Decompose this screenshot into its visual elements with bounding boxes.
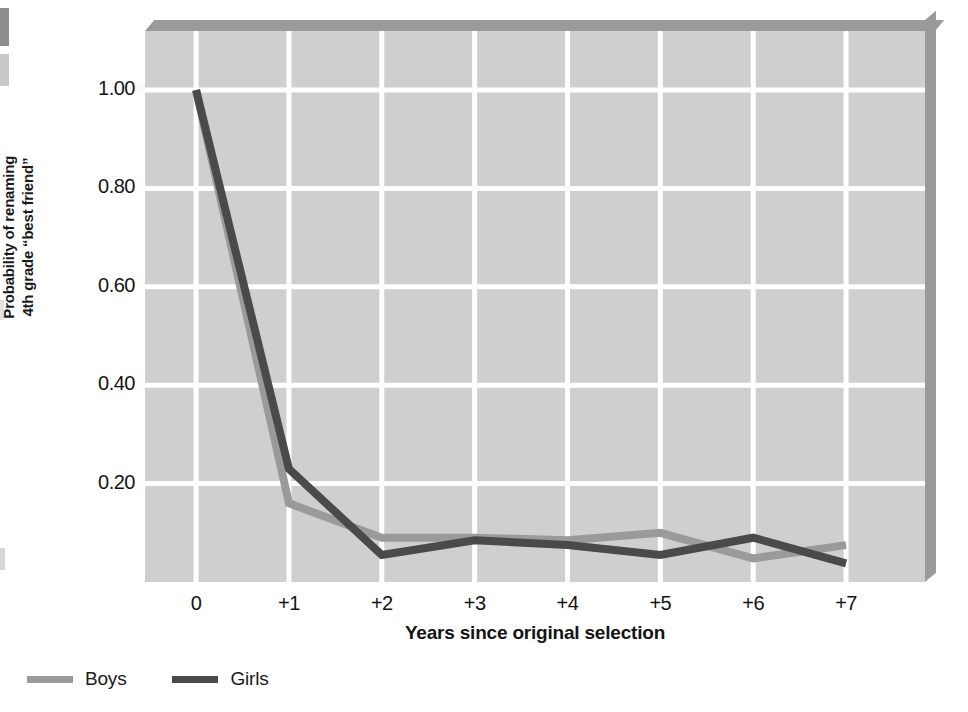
plot-canvas <box>145 31 925 582</box>
y-tick-label: 0.60 <box>69 274 135 297</box>
x-tick-label: +2 <box>352 592 412 615</box>
y-axis-title: Probability of renaming 4th grade “best … <box>0 0 37 477</box>
y-gridlines <box>145 90 925 484</box>
chart-legend: BoysGirls <box>27 668 269 690</box>
x-axis-title: Years since original selection <box>145 622 925 644</box>
x-tick-label: +4 <box>538 592 598 615</box>
legend-entry-boys[interactable]: Boys <box>27 668 126 690</box>
plot-3d-top-bevel <box>145 20 944 31</box>
x-tick-label: +1 <box>259 592 319 615</box>
legend-label-girls: Girls <box>230 668 268 690</box>
series-line-girls <box>196 90 846 563</box>
legend-swatch-girls <box>172 676 218 683</box>
x-gridlines <box>196 31 846 582</box>
y-tick-label: 0.80 <box>69 175 135 198</box>
legend-swatch-boys <box>27 676 73 683</box>
y-tick-label: 0.20 <box>69 471 135 494</box>
y-axis-title-line-2: 4th grade “best friend” <box>18 0 37 477</box>
scan-artifact-lower <box>0 548 5 570</box>
x-tick-label: +6 <box>723 592 783 615</box>
plot-3d-right-bevel <box>925 11 936 582</box>
legend-entry-girls[interactable]: Girls <box>172 668 268 690</box>
plot-area <box>145 31 925 582</box>
y-axis-title-line-1: Probability of renaming <box>0 0 18 477</box>
y-tick-label: 0.40 <box>69 372 135 395</box>
y-tick-label: 1.00 <box>69 77 135 100</box>
chart-figure: Probability of renaming 4th grade “best … <box>0 0 968 712</box>
x-tick-label: 0 <box>166 592 226 615</box>
series-lines <box>196 90 846 563</box>
x-tick-label: +7 <box>816 592 876 615</box>
x-tick-label: +5 <box>630 592 690 615</box>
series-line-boys <box>196 90 846 558</box>
x-tick-label: +3 <box>445 592 505 615</box>
legend-label-boys: Boys <box>85 668 126 690</box>
